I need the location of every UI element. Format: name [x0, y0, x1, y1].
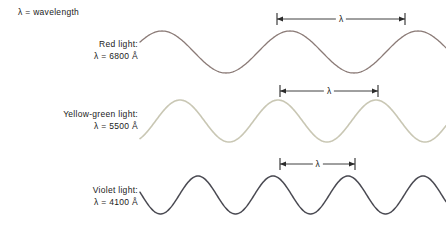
lambda-arrow-violet	[0, 0, 446, 230]
wavelength-diagram: λ = wavelength Red light:λ = 6800 ÅλYell…	[0, 0, 446, 230]
lambda-arrow-head	[280, 161, 286, 166]
lambda-arrow-head	[349, 161, 355, 166]
lambda-symbol-violet: λ	[312, 160, 322, 169]
